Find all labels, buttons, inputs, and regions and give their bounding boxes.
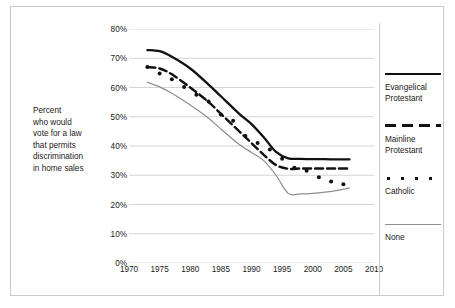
legend-label-line: Mainline — [385, 135, 447, 146]
series-mainline-protestant — [147, 67, 349, 169]
x-axis-tick: 2005 — [334, 265, 352, 274]
data-point — [207, 100, 211, 104]
legend-label-line: Evangelical — [385, 83, 447, 94]
y-axis-tick: 30% — [111, 171, 127, 180]
data-point — [145, 65, 149, 69]
data-point — [280, 157, 284, 161]
y-axis-caption-line: in home sales — [33, 163, 111, 175]
data-point — [170, 77, 174, 81]
legend-item-catholic[interactable]: Catholic — [385, 173, 447, 198]
y-axis-tick: 20% — [111, 200, 127, 209]
data-point — [243, 134, 247, 138]
y-axis-tick: 40% — [111, 142, 127, 151]
data-point — [182, 85, 186, 89]
y-axis-caption: Percentwho wouldvote for a lawthat permi… — [33, 105, 111, 175]
legend-separator — [379, 23, 380, 295]
legend-label: MainlineProtestant — [385, 135, 447, 156]
data-point — [305, 169, 309, 173]
y-axis-caption-line: who would — [33, 117, 111, 129]
legend-label-line: Protestant — [385, 146, 447, 157]
y-axis-tick: 10% — [111, 229, 127, 238]
x-axis-tick: 1990 — [242, 265, 260, 274]
legend-label-line: Protestant — [385, 94, 447, 105]
data-point — [329, 179, 333, 183]
data-point — [158, 71, 162, 75]
data-point — [268, 148, 272, 152]
x-axis-tick: 1975 — [151, 265, 169, 274]
legend-swatch-dotted — [385, 173, 441, 183]
plot-area — [129, 29, 374, 263]
data-point — [256, 141, 260, 145]
legend-swatch-solid — [385, 69, 441, 79]
chart-frame: Percentwho wouldvote for a lawthat permi… — [10, 6, 444, 296]
x-axis-tick: 1995 — [273, 265, 291, 274]
legend-label: Catholic — [385, 187, 447, 198]
x-axis-tick: 1980 — [181, 265, 199, 274]
legend-label-line: None — [385, 233, 447, 244]
y-axis-tick: 60% — [111, 83, 127, 92]
x-axis-tick: 2000 — [304, 265, 322, 274]
y-axis-caption-line: Percent — [33, 105, 111, 117]
series-evangelical-protestant — [147, 50, 349, 159]
x-axis-tick: 2010 — [365, 265, 383, 274]
legend-label-line: Catholic — [385, 187, 447, 198]
legend-swatch-thin — [385, 219, 441, 229]
y-axis-tick: 80% — [111, 25, 127, 34]
y-axis-caption-line: that permits — [33, 140, 111, 152]
data-point — [292, 166, 296, 170]
y-axis-tick: 70% — [111, 54, 127, 63]
data-point — [219, 112, 223, 116]
y-axis-caption-line: vote for a law — [33, 128, 111, 140]
data-point — [231, 119, 235, 123]
legend-item-none[interactable]: None — [385, 219, 447, 244]
legend-label: None — [385, 233, 447, 244]
data-point — [317, 175, 321, 179]
y-axis-tick-labels: 0%10%20%30%40%50%60%70%80% — [101, 29, 127, 263]
data-point — [341, 182, 345, 186]
x-axis-tick: 1970 — [120, 265, 138, 274]
legend-item-evangelical-protestant[interactable]: EvangelicalProtestant — [385, 69, 447, 104]
legend-label: EvangelicalProtestant — [385, 83, 447, 104]
legend-item-mainline-protestant[interactable]: MainlineProtestant — [385, 121, 447, 156]
x-axis-tick: 1985 — [212, 265, 230, 274]
x-axis-tick-labels: 197019751980198519901995200020052010 — [111, 265, 411, 281]
y-axis-tick: 50% — [111, 112, 127, 121]
y-axis-caption-line: discrimination — [33, 151, 111, 163]
legend-swatch-dashed — [385, 121, 441, 131]
series-canvas — [129, 29, 374, 263]
data-point — [194, 93, 198, 97]
